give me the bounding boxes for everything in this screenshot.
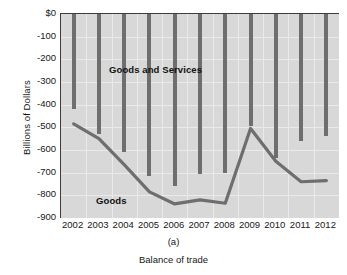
y-tick-label: -400 <box>10 98 56 109</box>
annotation-goods: Goods <box>96 195 127 206</box>
y-tick-label: -100 <box>10 30 56 41</box>
plot-inner: Goods and Services Goods <box>61 14 339 218</box>
y-tick-label: -600 <box>10 143 56 154</box>
y-tick-label: -300 <box>10 75 56 86</box>
annotation-goods-and-services: Goods and Services <box>109 64 202 75</box>
balance-of-trade-figure: Billions of Dollars $0-100-200-300-400-5… <box>0 0 347 275</box>
y-tick-label: -800 <box>10 188 56 199</box>
y-tick-label: -500 <box>10 120 56 131</box>
y-axis-tick-labels: $0-100-200-300-400-500-600-700-800-900 <box>10 0 56 275</box>
goods-line-series <box>61 14 339 218</box>
goods-polyline <box>74 124 327 204</box>
y-tick-label: $0 <box>10 7 56 18</box>
y-tick-label: -200 <box>10 52 56 63</box>
figure-caption: Balance of trade <box>0 254 347 265</box>
x-axis-tick-labels: 2002200320042005200620072008200920102011… <box>60 219 338 233</box>
plot-area: Goods and Services Goods <box>60 13 339 218</box>
y-tick-label: -700 <box>10 166 56 177</box>
panel-label: (a) <box>0 236 347 247</box>
x-tick-label: 2012 <box>305 219 345 230</box>
y-tick-label: -900 <box>10 211 56 222</box>
